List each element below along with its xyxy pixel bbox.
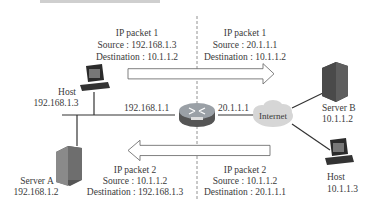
server-a-ip: 192.168.1.2 <box>8 187 64 198</box>
packet1-left-title: IP packet 1 <box>92 28 182 39</box>
packet1-right-title: IP packet 1 <box>200 28 290 39</box>
server-b-icon <box>322 62 348 102</box>
server-a-name: Server A <box>12 176 62 187</box>
packet2-right-source: Source : 10.1.1.2 <box>200 176 290 187</box>
packet2-right-destination: Destination : 20.1.1.1 <box>200 187 290 198</box>
packet1-left-source: Source : 192.168.1.3 <box>92 40 182 51</box>
packet1-right-destination: Destination : 10.1.1.2 <box>200 52 290 63</box>
router-outside-ip: 20.1.1.1 <box>218 103 249 114</box>
host-b-name: Host <box>327 172 345 183</box>
arrow-right-icon <box>128 64 274 84</box>
packet2-left-source: Source : 10.1.1.2 <box>80 176 190 187</box>
router-inside-ip: 192.168.1.1 <box>124 103 169 114</box>
host-b-computer-icon <box>325 138 354 165</box>
internet-label: Internet <box>253 111 293 122</box>
host-a-name: Host <box>52 87 82 98</box>
host-a-computer-icon <box>80 64 110 91</box>
server-b-ip: 10.1.1.2 <box>322 114 353 125</box>
host-b-ip: 10.1.1.3 <box>327 184 358 195</box>
arrow-left-icon <box>128 140 270 160</box>
server-b-name: Server B <box>322 103 356 114</box>
cut-off-caption <box>40 0 160 3</box>
host-a-ip: 192.168.1.3 <box>30 98 82 109</box>
server-b-link <box>292 93 323 108</box>
host-b-link <box>292 124 330 150</box>
packet2-right-title: IP packet 2 <box>200 165 290 176</box>
packet2-left-title: IP packet 2 <box>80 165 190 176</box>
router-icon <box>179 103 215 127</box>
packet1-left-destination: Destination : 10.1.1.2 <box>92 52 182 63</box>
packet2-left-destination: Destination : 192.168.1.3 <box>80 187 190 198</box>
packet1-right-source: Source : 20.1.1.1 <box>200 40 290 51</box>
